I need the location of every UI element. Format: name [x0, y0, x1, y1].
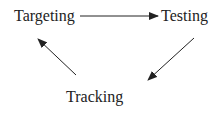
arrow-testing-to-tracking: [148, 38, 194, 80]
arrow-tracking-to-targeting: [38, 39, 76, 75]
cycle-diagram: Targeting Testing Tracking: [0, 0, 222, 118]
node-targeting: Targeting: [14, 8, 75, 24]
node-testing: Testing: [161, 8, 208, 24]
node-tracking: Tracking: [66, 89, 123, 105]
